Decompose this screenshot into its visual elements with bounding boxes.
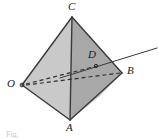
vertex-label-D: D (88, 49, 96, 60)
tetrahedron-diagram (0, 0, 159, 139)
vertex-label-C: C (68, 1, 75, 12)
vertex-label-A: A (66, 122, 73, 133)
vertex-label-B: B (127, 65, 134, 76)
figure-container: C O B A D Fig. (0, 0, 159, 139)
figure-caption: Fig. (6, 130, 66, 138)
face-O-C-A (22, 17, 72, 120)
vertex-label-O: O (7, 78, 15, 89)
face-C-B-A (70, 17, 122, 120)
